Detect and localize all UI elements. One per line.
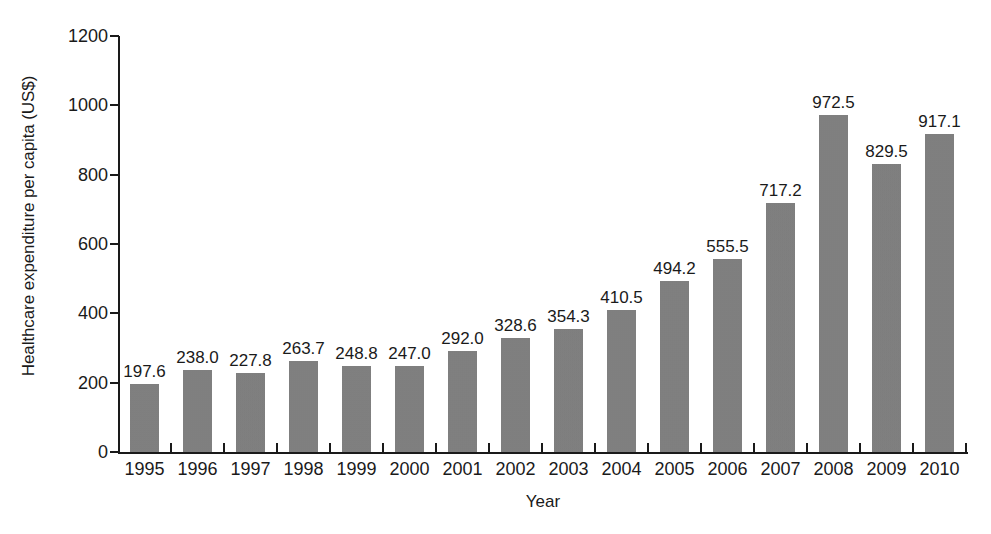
y-axis-tick-label: 600 [52,235,108,253]
bar-value-label: 555.5 [693,238,762,255]
plot-area: 197.6238.0227.8263.7248.8247.0292.0328.6… [118,36,968,454]
bar-group: 247.0 [383,36,436,454]
bar-group: 972.5 [807,36,860,454]
bar-value-label: 247.0 [375,345,444,362]
bar-group: 410.5 [595,36,648,454]
bar-group: 263.7 [277,36,330,454]
bar[interactable] [660,281,689,452]
bar-value-label: 972.5 [799,94,868,111]
x-axis-tick-label: 2005 [648,458,701,480]
bar[interactable] [130,384,159,453]
bar[interactable] [342,366,371,452]
x-axis-title: Year [118,492,968,512]
bar[interactable] [554,329,583,452]
bar[interactable] [766,203,795,452]
x-axis-tick-label: 2010 [913,458,966,480]
y-axis-tick-label: 400 [52,304,108,322]
bar[interactable] [713,259,742,452]
bar-group: 555.5 [701,36,754,454]
bar-chart-figure: Healthcare expenditure per capita (US$) … [0,0,991,534]
x-axis-tick-labels: 1995199619971998199920002001200220032004… [118,458,968,484]
bar[interactable] [819,115,848,452]
y-axis-tick-label: 0 [52,443,108,461]
x-axis-tick-label: 2002 [489,458,542,480]
bar[interactable] [501,338,530,452]
x-axis-tick-label: 1997 [224,458,277,480]
bar-group: 238.0 [171,36,224,454]
bar[interactable] [872,164,901,452]
x-axis-tick-label: 2008 [807,458,860,480]
bar-group: 292.0 [436,36,489,454]
bar[interactable] [289,361,318,452]
bar-group: 829.5 [860,36,913,454]
bar-group: 197.6 [118,36,171,454]
y-axis-tick-label: 200 [52,374,108,392]
y-axis-tick-label: 800 [52,166,108,184]
bar-group: 248.8 [330,36,383,454]
bar-value-label: 829.5 [852,143,921,160]
x-axis-tick-label: 2006 [701,458,754,480]
x-axis-tick-label: 2007 [754,458,807,480]
bar[interactable] [236,373,265,452]
bar-group: 354.3 [542,36,595,454]
y-axis-tick-label: 1200 [52,27,108,45]
x-axis-tick-label: 2004 [595,458,648,480]
bar-value-label: 917.1 [905,113,974,130]
x-axis-tick-label: 1998 [277,458,330,480]
y-axis-title: Healthcare expenditure per capita (US$) [12,0,46,452]
bar-group: 917.1 [913,36,966,454]
bar-value-label: 354.3 [534,308,603,325]
bar[interactable] [448,351,477,452]
bar[interactable] [183,370,212,453]
bar[interactable] [395,366,424,452]
x-axis-tick-label: 2003 [542,458,595,480]
y-axis-tick-labels: 020040060080010001200 [48,0,108,534]
bar-group: 328.6 [489,36,542,454]
bar-value-label: 717.2 [746,182,815,199]
x-axis-tick-label: 2009 [860,458,913,480]
x-axis-tick-label: 2000 [383,458,436,480]
x-axis-tick-label: 2001 [436,458,489,480]
bar-group: 227.8 [224,36,277,454]
x-axis-tick-label: 1996 [171,458,224,480]
y-axis-tick-label: 1000 [52,96,108,114]
x-axis-tick-label: 1995 [118,458,171,480]
bar-value-label: 410.5 [587,289,656,306]
bar[interactable] [607,310,636,452]
x-axis-tick-label: 1999 [330,458,383,480]
bar[interactable] [925,134,954,452]
bar-value-label: 494.2 [640,260,709,277]
